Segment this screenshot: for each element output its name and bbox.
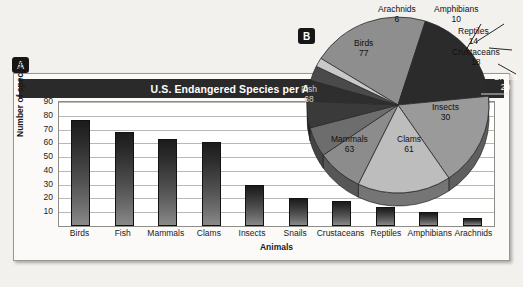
pie-label-crustaceans: Crustaceans18 [452, 47, 500, 67]
pie-label-fish: Fish68 [301, 84, 317, 104]
pie-label-value: 77 [354, 48, 373, 58]
bar-insects [245, 185, 264, 226]
pie-label-value: 30 [432, 112, 459, 122]
pie-label-value: 6 [378, 14, 416, 24]
x-axis-tick-labels: BirdsFishMammalsClamsInsectsSnailsCrusta… [58, 228, 495, 242]
y-axis-label: Number of species [15, 61, 25, 137]
x-tick-crustaceans: Crustaceans [317, 228, 365, 242]
y-tick-50: 50 [44, 152, 53, 161]
y-axis-ticks: 908070605040302010 [33, 101, 55, 225]
pie-label-reptiles: Reptiles14 [458, 26, 489, 46]
x-tick-mammals: Mammals [144, 228, 187, 242]
x-tick-arachnids: Arachnids [452, 228, 495, 242]
pie-label-value: 63 [331, 144, 368, 154]
y-tick-40: 40 [44, 166, 53, 175]
pie-label-clams: Clams61 [397, 134, 421, 154]
pie-label-value: 18 [452, 57, 500, 67]
x-tick-amphibians: Amphibians [407, 228, 451, 242]
bar-arachnids [463, 218, 482, 226]
pie-label-name: Reptiles [458, 26, 489, 36]
pie-label-value: 10 [434, 14, 478, 24]
y-tick-30: 30 [44, 179, 53, 188]
x-axis-label: Animals [58, 242, 495, 252]
pie-label-name: Arachnids [378, 4, 416, 14]
bar-slot [103, 102, 147, 226]
pie-label-arachnids: Arachnids6 [378, 4, 416, 24]
x-tick-reptiles: Reptiles [364, 228, 407, 242]
pie-label-value: 20 [494, 82, 517, 92]
pie-label-name: Crustaceans [452, 47, 500, 57]
bar-slot [190, 102, 234, 226]
y-tick-60: 60 [44, 138, 53, 147]
pie-label-value: 14 [458, 36, 489, 46]
y-tick-80: 80 [44, 111, 53, 120]
pie-label-name: Clams [397, 134, 421, 144]
bar-slot [59, 102, 103, 226]
x-tick-fish: Fish [101, 228, 144, 242]
y-tick-70: 70 [44, 124, 53, 133]
bar-slot [146, 102, 190, 226]
x-tick-birds: Birds [58, 228, 101, 242]
pie-label-insects: Insects30 [432, 102, 459, 122]
pie-label-amphibians: Amphibians10 [434, 4, 478, 24]
bar-birds [71, 120, 90, 226]
pie-label-name: Mammals [331, 134, 368, 144]
x-tick-clams: Clams [187, 228, 230, 242]
y-tick-90: 90 [44, 97, 53, 106]
bar-fish [115, 132, 134, 226]
pie-label-snails: Snails20 [494, 72, 517, 92]
pie-label-name: Birds [354, 38, 373, 48]
bar-mammals [158, 139, 177, 226]
pie-label-name: Insects [432, 102, 459, 112]
y-tick-20: 20 [44, 193, 53, 202]
pie-label-value: 68 [301, 94, 317, 104]
y-tick-10: 10 [44, 207, 53, 216]
pie-label-name: Amphibians [434, 4, 478, 14]
bar-slot [233, 102, 277, 226]
x-tick-insects: Insects [230, 228, 273, 242]
bar-clams [202, 142, 221, 226]
pie-label-mammals: Mammals63 [331, 134, 368, 154]
pie-label-value: 61 [397, 144, 421, 154]
figure-badge-b: B [298, 28, 315, 44]
pie-label-name: Fish [301, 84, 317, 94]
x-tick-snails: Snails [274, 228, 317, 242]
pie-label-birds: Birds77 [354, 38, 373, 58]
pie-label-name: Snails [494, 72, 517, 82]
